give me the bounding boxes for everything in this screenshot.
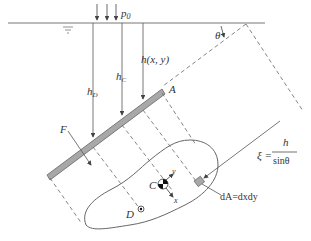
h-xy-label: h(x, y) [141,53,169,66]
dA-label: dA=dxdy [220,191,258,202]
h-C-label: hC [116,70,127,84]
h-D-label: hD [87,85,98,99]
xi-denominator: sinθ [273,155,290,166]
y-axis-label: y [171,167,176,176]
p0-label: p0 [120,7,131,21]
pressure-arrows [97,4,116,20]
centroid-C-icon [158,179,168,189]
x-axis-arrow [166,188,173,197]
xi-numerator: h [283,136,289,148]
x-axis-label: x [173,196,178,205]
A-label: A [168,83,176,95]
inclined-axis-line [163,24,246,86]
dA-leader [202,184,221,195]
F-label: F [59,123,67,135]
C-label: C [149,179,157,191]
theta-arc-marker [221,26,224,37]
center-of-pressure-D-icon [138,206,144,212]
water-level-icon [63,27,73,33]
projection-edge-right [246,24,303,111]
xi-lhs: ξ = [257,149,272,162]
theta-label: θ [215,29,221,41]
hydrostatic-diagram: p0 h(x, y) hC hD θ A F y x C D [0,0,311,241]
D-label: D [125,208,134,220]
